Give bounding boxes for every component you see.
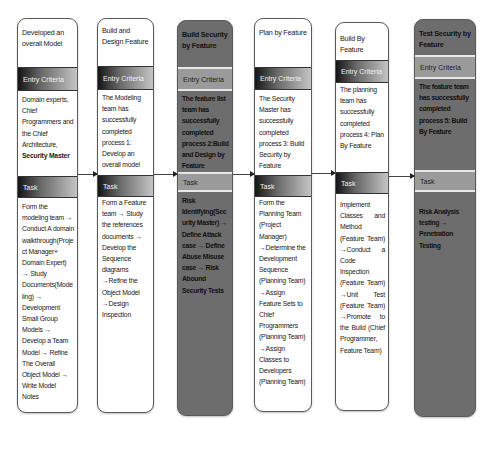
process-3-box: Build Security by Feature Entry Criteria… — [177, 20, 233, 416]
task-text: Implement Classes and Method (Feature Te… — [340, 199, 385, 356]
entry-criteria-text: Domain experts, Chief Programmers and th… — [22, 94, 74, 161]
entry-criteria-label: Entry Criteria — [103, 75, 144, 82]
entry-criteria-label: Entry Criteria — [420, 64, 461, 71]
flow-arrow-3-4 — [233, 174, 254, 175]
process-title: Build and Design Feature — [102, 25, 150, 47]
entry-criteria-text: The Modeling team has successfully compl… — [102, 92, 150, 170]
entry-criteria-label: Entry Criteria — [23, 76, 64, 83]
task-label: Task — [260, 183, 274, 190]
task-label: Task — [23, 184, 37, 191]
entry-criteria-label: Entry Criteria — [341, 68, 382, 75]
process-1-box: Developed an overall Model Entry Criteri… — [17, 18, 78, 413]
task-header: Task — [415, 170, 475, 192]
task-header: Task — [255, 175, 311, 197]
flow-arrow-4-5 — [312, 173, 335, 174]
entry-criteria-text: The feature list team has successfully c… — [182, 93, 229, 171]
task-header: Task — [98, 175, 153, 197]
task-header: Task — [178, 172, 232, 192]
process-title: Build By Feature — [340, 33, 385, 55]
entry-criteria-header: Entry Criteria — [336, 60, 388, 83]
task-label: Task — [341, 180, 355, 187]
entry-criteria-header: Entry Criteria — [178, 67, 232, 91]
process-title: Developed an overall Model — [22, 27, 74, 49]
process-4-box: Plan by Feature Entry Criteria The Secur… — [254, 18, 312, 412]
entry-criteria-text: The planning team has successfully compl… — [340, 84, 385, 151]
entry-criteria-text: The Security Master has successfully com… — [259, 93, 308, 171]
task-text: Risk Identifying(Security Master) → Defi… — [182, 195, 229, 296]
entry-criteria-label: Entry Criteria — [260, 75, 301, 82]
task-text: Form the modeling team → Conduct A domai… — [22, 201, 74, 403]
task-header: Task — [18, 176, 77, 198]
task-header: Task — [336, 172, 388, 194]
task-label: Task — [103, 183, 117, 190]
task-text: Form the Planning Team (Project Manager)… — [259, 197, 308, 387]
flow-arrow-1-2 — [78, 174, 97, 175]
process-2-box: Build and Design Feature Entry Criteria … — [97, 18, 154, 413]
process-title: Plan by Feature — [259, 27, 308, 38]
task-text: Form a Feature team → Study the referenc… — [102, 197, 150, 320]
security-master-label: Security Master — [22, 152, 70, 159]
entry-criteria-header: Entry Criteria — [98, 66, 153, 90]
entry-criteria-text: The feature team has successfully comple… — [419, 81, 472, 137]
process-title: Test Security by Feature — [419, 28, 472, 50]
task-label: Task — [420, 178, 434, 185]
task-text: Risk Analysis testing → Penetration Test… — [419, 206, 472, 251]
entry-criteria-header: Entry Criteria — [255, 67, 311, 90]
process-title: Build Security by Feature — [182, 29, 229, 51]
process-6-box: Test Security by Feature Entry Criteria … — [414, 19, 476, 417]
process-5-box: Build By Feature Entry Criteria The plan… — [335, 22, 389, 411]
flow-arrow-2-3 — [154, 174, 177, 175]
flow-arrow-5-6 — [389, 176, 414, 177]
entry-criteria-header: Entry Criteria — [415, 55, 475, 79]
entry-criteria-label: Entry Criteria — [183, 76, 224, 83]
task-label: Task — [183, 179, 197, 186]
entry-criteria-header: Entry Criteria — [18, 67, 77, 91]
